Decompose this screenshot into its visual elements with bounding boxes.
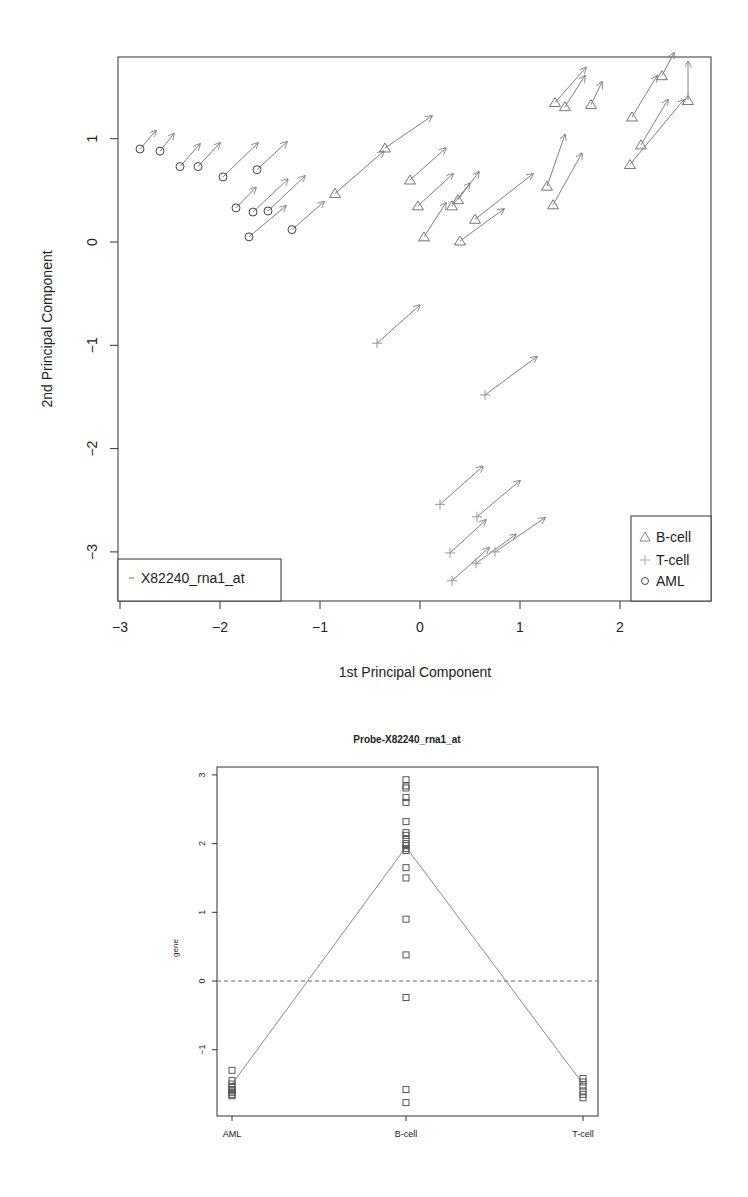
square-point-icon	[403, 836, 409, 842]
y-tick-label: −2	[84, 440, 100, 456]
loading-arrow	[630, 99, 684, 164]
y-tick-label: −1	[84, 337, 100, 353]
loading-arrow	[450, 520, 486, 553]
gene-legend: X82240_rna1_at	[118, 559, 281, 601]
loading-arrow	[377, 305, 420, 343]
y-tick-label: −1	[197, 1045, 207, 1055]
square-point-icon	[229, 1067, 235, 1073]
probe-plot-title: Probe-X82240_rna1_at	[353, 734, 461, 745]
square-point-icon	[403, 952, 409, 958]
sample-points	[136, 71, 694, 586]
y-axis: 10−1−2−3	[84, 135, 118, 560]
loading-arrow	[257, 142, 287, 170]
loading-arrow	[385, 116, 432, 148]
loading-arrow	[223, 143, 258, 177]
loading-arrow	[418, 174, 453, 206]
tcell-point-plus-icon	[480, 390, 490, 400]
loading-arrow	[198, 143, 220, 167]
y-tick-label: 3	[197, 772, 207, 777]
loading-arrow	[268, 176, 305, 211]
loading-arrow	[452, 548, 489, 581]
y-tick-label: 0	[197, 978, 207, 983]
loading-arrow	[424, 203, 446, 237]
loading-arrow	[662, 53, 674, 76]
plot-frame	[217, 767, 598, 1116]
x-tick-label: −2	[212, 619, 228, 635]
group-mean-line	[232, 847, 583, 1084]
square-point-icon	[403, 819, 409, 825]
x-axis: −3−2−1012	[112, 601, 624, 635]
gene-legend-label: X82240_rna1_at	[141, 570, 245, 586]
loading-arrow	[410, 148, 446, 180]
loading-arrows	[140, 53, 688, 581]
loading-arrow	[292, 202, 324, 230]
x-tick-label: 2	[616, 619, 624, 635]
y-tick-label: 0	[84, 238, 100, 246]
loading-arrow	[440, 466, 483, 504]
figure: −3−2−1012 10−1−2−3 1st Principal Compone…	[0, 0, 748, 1197]
y-tick-label: 1	[197, 910, 207, 915]
loading-arrow	[553, 153, 582, 205]
square-point-icon	[403, 1100, 409, 1106]
plot-frame	[118, 57, 711, 601]
x-category-label: B-cell	[395, 1129, 418, 1139]
probe-strip-plot: Probe-X82240_rna1_at 3210−1 AMLB-cellT-c…	[171, 734, 598, 1139]
y-tick-label: 1	[84, 135, 100, 143]
loading-arrow	[547, 135, 565, 187]
loading-arrow	[477, 481, 520, 517]
y-tick-label: 2	[197, 841, 207, 846]
loading-arrow	[160, 134, 174, 152]
loading-arrow	[495, 518, 545, 552]
square-point-icon	[403, 865, 409, 871]
x-tick-label: 0	[416, 619, 424, 635]
square-point-icon	[403, 1087, 409, 1093]
square-point-icon	[403, 777, 409, 783]
y-tick-label: −3	[84, 544, 100, 560]
legend-tcell: T-cell	[656, 552, 689, 568]
square-point-icon	[403, 916, 409, 922]
x-category-label: AML	[223, 1129, 242, 1139]
square-point-icon	[403, 994, 409, 1000]
loading-arrow	[641, 99, 668, 144]
x-category-label: T-cell	[572, 1129, 594, 1139]
loading-arrow	[475, 174, 533, 219]
tcell-point-plus-icon	[471, 558, 481, 568]
square-point-icon	[403, 785, 409, 791]
loading-arrow	[591, 82, 602, 105]
loading-arrow	[485, 357, 537, 395]
loading-arrow	[253, 179, 288, 212]
square-point-icon	[403, 875, 409, 881]
y-axis-label: 2nd Principal Component	[39, 250, 55, 407]
legend-bcell: B-cell	[656, 529, 691, 545]
x-tick-label: −3	[112, 619, 128, 635]
x-tick-label: 1	[516, 619, 524, 635]
pca-biplot: −3−2−1012 10−1−2−3 1st Principal Compone…	[39, 53, 711, 680]
y-axis: 3210−1	[197, 772, 217, 1054]
loading-arrow	[335, 151, 384, 193]
expression-points	[229, 777, 586, 1106]
loading-arrow	[458, 172, 479, 200]
square-point-icon	[403, 783, 409, 789]
group-legend: B-cell T-cell AML	[631, 516, 711, 601]
tcell-point-plus-icon	[490, 547, 500, 557]
legend-aml: AML	[656, 573, 685, 589]
loading-arrow	[476, 534, 516, 563]
x-axis: AMLB-cellT-cell	[223, 1116, 594, 1139]
loading-arrow	[632, 76, 657, 117]
x-tick-label: −1	[312, 619, 328, 635]
x-axis-label: 1st Principal Component	[339, 664, 492, 680]
y-axis-label: gene	[171, 939, 180, 957]
